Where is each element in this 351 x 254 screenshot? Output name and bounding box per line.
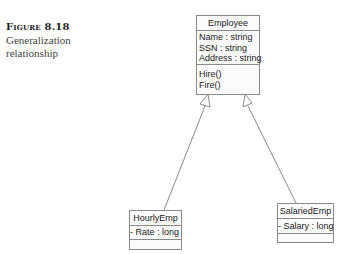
- operation: Hire(): [199, 69, 259, 80]
- hourly-generalization-arrowhead-icon: [200, 94, 210, 107]
- operation: Fire(): [199, 80, 259, 91]
- attribute: Name : string: [199, 32, 259, 43]
- attribute: - Salary : long: [278, 219, 333, 233]
- attributes-section: Name : string SSN : string Address : str…: [197, 31, 259, 65]
- attributes-section: - Salary : long: [278, 219, 333, 234]
- attribute: - Rate : long: [130, 226, 181, 239]
- attribute: SSN : string: [199, 43, 259, 54]
- hourly-generalization-line: [164, 106, 205, 210]
- class-name: Employee: [197, 16, 259, 31]
- attribute: Address : string: [199, 53, 259, 64]
- salaried-generalization-arrowhead-icon: [243, 94, 252, 107]
- operations-section: Hire() Fire(): [197, 65, 259, 90]
- attributes-section: - Rate : long: [130, 226, 181, 240]
- class-hourlyemp[interactable]: HourlyEmp - Rate : long: [129, 210, 182, 250]
- class-name: SalariedEmp: [278, 204, 333, 219]
- class-employee[interactable]: Employee Name : string SSN : string Addr…: [196, 15, 260, 95]
- class-salariedemp[interactable]: SalariedEmp - Salary : long: [277, 203, 334, 243]
- class-name: HourlyEmp: [130, 211, 181, 226]
- salaried-generalization-line: [248, 106, 296, 203]
